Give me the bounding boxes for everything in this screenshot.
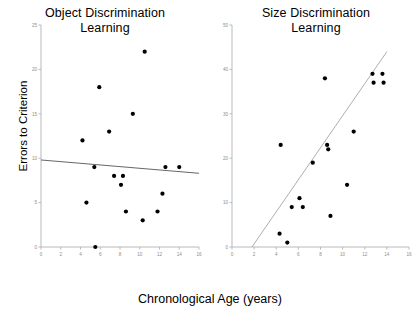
y-tick-label: 30 xyxy=(223,112,229,117)
data-point xyxy=(177,165,181,169)
data-point xyxy=(285,240,289,244)
x-tick-label: 14 xyxy=(177,252,183,257)
y-tick-label: 5 xyxy=(34,200,37,205)
data-point xyxy=(311,161,315,165)
x-tick-label: 0 xyxy=(40,252,43,257)
x-tick-label: 12 xyxy=(362,252,368,257)
data-point xyxy=(93,245,97,249)
data-point xyxy=(112,174,116,178)
data-point xyxy=(380,72,384,76)
data-point xyxy=(372,81,376,85)
data-point xyxy=(84,201,88,205)
x-tick-label: 4 xyxy=(275,252,278,257)
data-point xyxy=(277,232,281,236)
data-point xyxy=(301,205,305,209)
regression-line xyxy=(41,160,199,173)
chart-panel-size-discrimination: Size Discrimination Learning 01020304050… xyxy=(210,0,420,300)
y-tick-label: 0 xyxy=(34,245,37,250)
data-point xyxy=(92,165,96,169)
x-tick-label: 6 xyxy=(99,252,102,257)
data-point xyxy=(121,174,125,178)
x-tick-label: 14 xyxy=(384,252,390,257)
x-tick-label: 8 xyxy=(119,252,122,257)
x-tick-label: 2 xyxy=(59,252,62,257)
data-point xyxy=(131,112,135,116)
chart-title-line-1: Object Discrimination xyxy=(10,6,200,21)
chart-title-line-1: Size Discrimination xyxy=(218,6,414,21)
data-point xyxy=(297,196,301,200)
chart-title-object-discrimination: Object Discrimination Learning xyxy=(10,6,200,36)
y-tick-label: 0 xyxy=(225,245,228,250)
data-point xyxy=(160,192,164,196)
x-tick-label: 2 xyxy=(253,252,256,257)
chart-title-size-discrimination: Size Discrimination Learning xyxy=(218,6,414,36)
data-point xyxy=(323,76,327,80)
y-tick-label: 15 xyxy=(32,112,38,117)
y-tick-label: 40 xyxy=(223,67,229,72)
data-point xyxy=(328,214,332,218)
data-point xyxy=(119,183,123,187)
data-point xyxy=(97,85,101,89)
regression-line xyxy=(252,52,387,247)
data-point xyxy=(141,218,145,222)
data-point xyxy=(352,129,356,133)
data-point xyxy=(345,183,349,187)
data-point xyxy=(163,165,167,169)
x-tick-label: 16 xyxy=(196,252,202,257)
plot-area-size-discrimination: 010203040500246810121416 xyxy=(210,0,420,300)
x-tick-label: 12 xyxy=(157,252,163,257)
data-point xyxy=(381,81,385,85)
y-tick-label: 20 xyxy=(32,67,38,72)
y-axis-label: Errors to Criterion xyxy=(17,51,29,201)
figure-container: Object Discrimination Learning 051015202… xyxy=(0,0,420,323)
x-tick-label: 10 xyxy=(137,252,143,257)
data-point xyxy=(326,147,330,151)
y-tick-label: 20 xyxy=(223,156,229,161)
x-axis-label: Chronological Age (years) xyxy=(0,292,420,306)
data-point xyxy=(143,50,147,54)
chart-title-line-2: Learning xyxy=(10,21,200,36)
data-point xyxy=(155,209,159,213)
x-tick-label: 10 xyxy=(340,252,346,257)
chart-panel-object-discrimination: Object Discrimination Learning 051015202… xyxy=(0,0,210,300)
chart-title-line-2: Learning xyxy=(218,21,414,36)
data-point xyxy=(107,129,111,133)
data-point xyxy=(290,205,294,209)
data-point xyxy=(325,143,329,147)
data-point xyxy=(370,72,374,76)
y-tick-label: 10 xyxy=(223,200,229,205)
plot-area-object-discrimination: 05101520250246810121416 xyxy=(0,0,210,300)
data-point xyxy=(80,138,84,142)
x-tick-label: 8 xyxy=(319,252,322,257)
x-tick-label: 4 xyxy=(79,252,82,257)
y-tick-label: 10 xyxy=(32,156,38,161)
data-point xyxy=(279,143,283,147)
data-point xyxy=(124,209,128,213)
x-tick-label: 0 xyxy=(231,252,234,257)
x-tick-label: 16 xyxy=(406,252,412,257)
x-tick-label: 6 xyxy=(297,252,300,257)
